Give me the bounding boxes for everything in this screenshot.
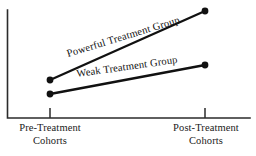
series-powerful-treatment-group: Powerful Treatment Group <box>47 8 209 84</box>
x-axis-label-pre-line1: Pre-Treatment <box>0 122 100 135</box>
x-axis-label-post-treatment: Post-Treatment Cohorts <box>156 122 256 147</box>
series-marker-powerful-start <box>47 77 54 84</box>
x-axis-label-post-line1: Post-Treatment <box>156 122 256 135</box>
series-weak-treatment-group: Weak Treatment Group <box>47 54 209 97</box>
series-marker-weak-start <box>47 91 54 98</box>
x-axis-label-pre-treatment: Pre-Treatment Cohorts <box>0 122 100 147</box>
x-axis-label-pre-line2: Cohorts <box>0 135 100 148</box>
series-label-weak: Weak Treatment Group <box>76 54 178 79</box>
series-marker-powerful-end <box>202 8 209 15</box>
series-marker-weak-end <box>202 62 209 69</box>
slope-chart-figure: Powerful Treatment Group Weak Treatment … <box>0 0 256 156</box>
x-axis-label-post-line2: Cohorts <box>156 135 256 148</box>
series-label-powerful: Powerful Treatment Group <box>65 14 181 59</box>
